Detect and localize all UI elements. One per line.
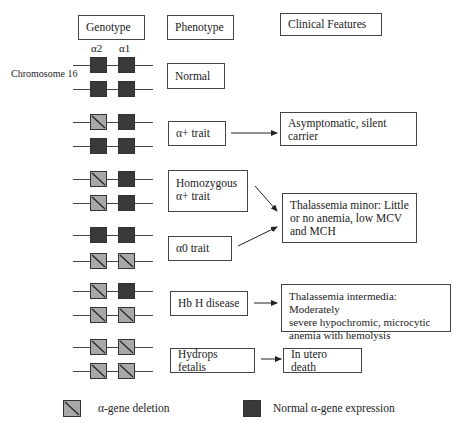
legend-normal-swatch-icon: [243, 400, 261, 417]
arrow-homozygous-to-minor: [255, 186, 277, 211]
legend-normal-label: Normal α-gene expression: [273, 402, 395, 414]
arrows-layer: [0, 0, 460, 435]
legend-deletion-swatch-icon: [63, 400, 81, 417]
legend-deletion-label: α-gene deletion: [98, 402, 169, 414]
arrow-alpha-zero-to-minor: [238, 227, 277, 246]
